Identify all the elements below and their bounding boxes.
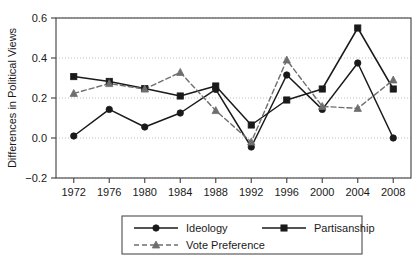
data-point-partisanship-2004 [355, 25, 361, 31]
data-point-partisanship-1988 [213, 83, 219, 89]
data-point-ideology-2004 [355, 60, 361, 66]
chart-legend: IdeologyPartisanshipVote Preference [122, 216, 375, 254]
y-tick-label: 0.2 [32, 92, 47, 104]
data-point-ideology-1976 [106, 106, 112, 112]
legend-label-ideology: Ideology [186, 222, 228, 234]
data-point-ideology-2008 [390, 135, 396, 141]
x-tick-label: 1980 [133, 186, 157, 198]
x-tick-label: 1992 [239, 186, 263, 198]
data-point-partisanship-1992 [248, 122, 254, 128]
y-tick-label: 0.6 [32, 12, 47, 24]
data-point-partisanship-1996 [284, 97, 290, 103]
data-point-partisanship-2008 [390, 86, 396, 92]
line-chart: −0.20.00.20.40.6 19721976198019841988199… [0, 0, 417, 259]
legend-marker-ideology [153, 225, 159, 231]
legend-marker-partisanship [281, 225, 287, 231]
data-point-partisanship-1984 [177, 93, 183, 99]
x-tick-label: 1984 [168, 186, 192, 198]
chart-figure: −0.20.00.20.40.6 19721976198019841988199… [0, 0, 417, 259]
y-axis-title: Differences in Political Views [6, 27, 18, 168]
x-tick-label: 1996 [275, 186, 299, 198]
y-tick-label: 0.4 [32, 52, 47, 64]
data-point-ideology-1972 [71, 133, 77, 139]
x-tick-label: 1976 [97, 186, 121, 198]
y-tick-label: 0.0 [32, 132, 47, 144]
data-point-ideology-1980 [142, 124, 148, 130]
legend-label-vote-preference: Vote Preference [186, 239, 265, 251]
x-tick-label: 1972 [62, 186, 86, 198]
x-tick-label: 2000 [310, 186, 334, 198]
x-tick-label: 2004 [346, 186, 370, 198]
data-point-partisanship-1972 [71, 74, 77, 80]
data-point-ideology-1996 [284, 72, 290, 78]
x-tick-label: 1988 [204, 186, 228, 198]
y-tick-label: −0.2 [25, 172, 47, 184]
x-tick-label: 2008 [381, 186, 405, 198]
data-point-ideology-1984 [177, 110, 183, 116]
legend-label-partisanship: Partisanship [314, 222, 375, 234]
data-point-partisanship-2000 [319, 86, 325, 92]
